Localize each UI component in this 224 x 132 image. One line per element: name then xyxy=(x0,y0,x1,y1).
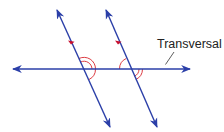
angle-arc-lower-right xyxy=(89,69,96,80)
angle-arc-upper-left xyxy=(119,59,126,70)
transversal-leader-line xyxy=(166,52,175,65)
transversal-label: Transversal xyxy=(157,37,222,51)
transversal-diagram: Transversal xyxy=(0,0,224,132)
